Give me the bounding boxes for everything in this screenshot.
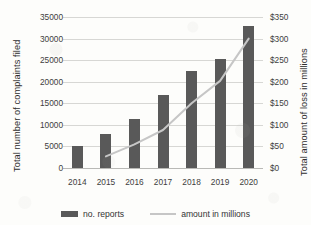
left-tick-label: 35000 (40, 12, 63, 22)
left-axis-title: Total number of complaints filed (12, 40, 22, 172)
right-tick-label: $300 (270, 34, 288, 44)
gridline (63, 60, 263, 61)
left-tick-label: 5000 (45, 141, 63, 151)
bar (215, 59, 226, 168)
bar (100, 134, 111, 169)
legend-bar-swatch-icon (61, 211, 78, 217)
right-tick-label: $50 (270, 141, 284, 151)
gridline (63, 39, 263, 40)
x-tick-label: 2014 (61, 177, 93, 187)
right-tick-label: $350 (270, 12, 288, 22)
right-axis-title: Total amount of loss in millions (299, 48, 309, 176)
left-tick-label: 25000 (40, 55, 63, 65)
bar (72, 146, 83, 168)
combo-chart: Total number of complaints filed Total a… (0, 0, 311, 225)
bar (158, 95, 169, 168)
bar (129, 119, 140, 168)
bar (186, 71, 197, 168)
legend-item-line: amount in millions (150, 209, 250, 219)
x-tick-label: 2020 (233, 177, 265, 187)
bar (243, 26, 254, 168)
left-tick-label: 15000 (40, 98, 63, 108)
right-tick-label: $200 (270, 77, 288, 87)
x-tick-label: 2019 (204, 177, 236, 187)
gridline (63, 82, 263, 83)
left-tick-label: 0 (58, 163, 63, 173)
x-tick-label: 2015 (90, 177, 122, 187)
right-tick-label: $250 (270, 55, 288, 65)
gridline (63, 168, 263, 169)
x-tick-label: 2017 (147, 177, 179, 187)
left-tick-label: 20000 (40, 77, 63, 87)
legend-item-bar: no. reports (61, 209, 124, 219)
x-tick-label: 2018 (176, 177, 208, 187)
line-path (106, 39, 249, 157)
x-tick-label: 2016 (118, 177, 150, 187)
left-tick-label: 10000 (40, 120, 63, 130)
right-tick-label: $0 (270, 163, 279, 173)
right-tick-label: $100 (270, 120, 288, 130)
legend-line-swatch-icon (150, 213, 176, 215)
gridline (63, 17, 263, 18)
legend-line-label: amount in millions (181, 209, 250, 219)
chart-legend: no. reports amount in millions (0, 209, 311, 219)
right-tick-label: $150 (270, 98, 288, 108)
left-tick-label: 30000 (40, 34, 63, 44)
legend-bar-label: no. reports (83, 209, 124, 219)
